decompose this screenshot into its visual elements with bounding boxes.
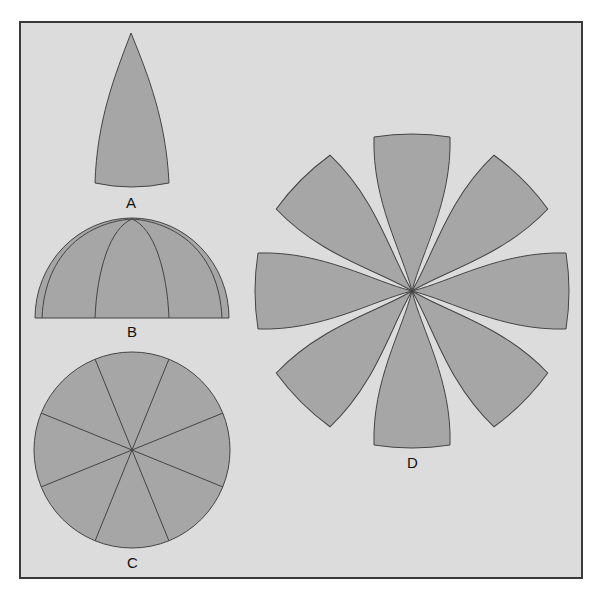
- label-c: C: [127, 554, 138, 571]
- label-b: B: [127, 323, 137, 340]
- label-a: A: [126, 194, 136, 211]
- figure-canvas: A B C D: [0, 0, 596, 589]
- panel-d-radial-gores: [255, 134, 569, 448]
- panel-a-gore: [95, 33, 169, 187]
- panel-c-circle: [34, 352, 230, 548]
- panel-b-hemisphere: [35, 218, 229, 318]
- label-d: D: [407, 454, 418, 471]
